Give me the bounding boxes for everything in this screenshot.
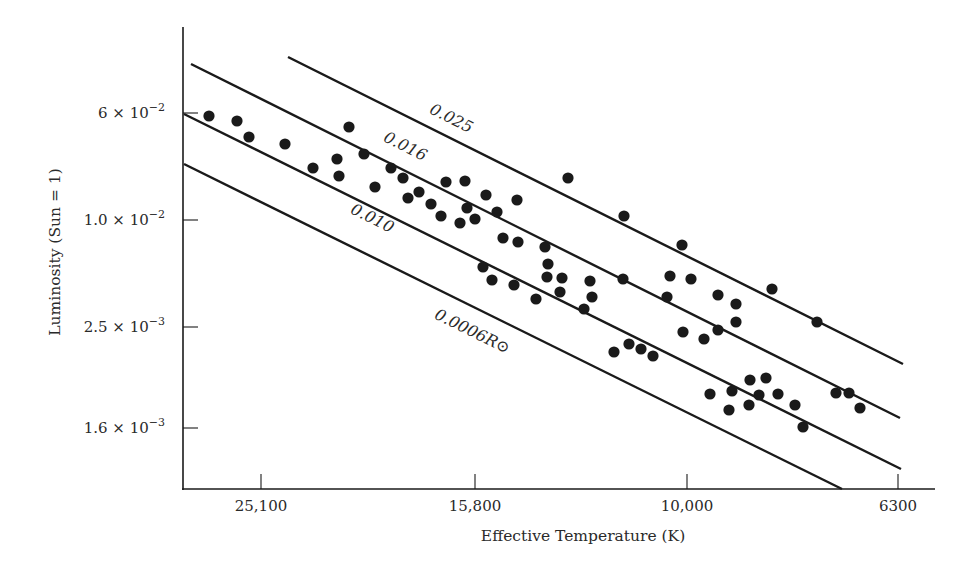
data-point [307, 162, 318, 173]
data-point [491, 206, 502, 217]
y-tick-label: 1.6 × 10−3 [84, 416, 165, 437]
data-point [677, 326, 688, 337]
data-point [760, 372, 771, 383]
data-point [530, 293, 541, 304]
data-point [704, 388, 715, 399]
data-point [413, 186, 424, 197]
data-point [730, 298, 741, 309]
data-point [685, 273, 696, 284]
hr-diagram-chart: 25,10015,80010,0006300 6 × 10−21.0 × 10−… [0, 0, 971, 574]
data-point [843, 387, 854, 398]
data-point [397, 172, 408, 183]
data-point [203, 110, 214, 121]
y-tick-label: 6 × 10−2 [98, 101, 165, 122]
x-tick-label: 6300 [879, 497, 917, 515]
data-point [608, 346, 619, 357]
data-point [698, 333, 709, 344]
data-point [723, 404, 734, 415]
data-point [461, 202, 472, 213]
data-point [279, 138, 290, 149]
data-point [539, 241, 550, 252]
data-point [664, 270, 675, 281]
y-tick-label: 2.5 × 10−3 [84, 315, 165, 336]
data-point [753, 389, 764, 400]
data-point [511, 194, 522, 205]
radius-line-label: 0.0006R⊙ [432, 305, 513, 358]
x-tick-label: 10,000 [661, 497, 714, 515]
data-point [647, 350, 658, 361]
x-ticks: 25,10015,80010,0006300 [235, 474, 917, 515]
data-point [243, 131, 254, 142]
data-point [712, 324, 723, 335]
data-point [743, 399, 754, 410]
y-axis-title: Luminosity (Sun = 1) [46, 168, 64, 335]
data-point [854, 402, 865, 413]
data-point [369, 181, 380, 192]
x-tick-label: 25,100 [235, 497, 288, 515]
data-point [425, 198, 436, 209]
data-point [541, 271, 552, 282]
data-point [772, 388, 783, 399]
data-point [617, 273, 628, 284]
data-point [623, 338, 634, 349]
data-point [440, 176, 451, 187]
radius-line-label: 0.010 [348, 199, 397, 236]
data-point [562, 172, 573, 183]
data-point [726, 385, 737, 396]
data-point [512, 236, 523, 247]
data-point [586, 291, 597, 302]
data-point [469, 213, 480, 224]
data-point [554, 286, 565, 297]
radius-line-label: 0.016 [381, 127, 430, 164]
radius-line [184, 164, 842, 489]
data-point [744, 374, 755, 385]
data-point [497, 232, 508, 243]
data-point [578, 303, 589, 314]
data-point [435, 210, 446, 221]
data-point [486, 274, 497, 285]
data-point [830, 387, 841, 398]
data-point [477, 261, 488, 272]
data-point [480, 189, 491, 200]
data-point [508, 279, 519, 290]
y-tick-label: 1.0 × 10−2 [84, 208, 165, 229]
data-point [797, 421, 808, 432]
data-point [766, 283, 777, 294]
data-point [333, 170, 344, 181]
data-point [402, 192, 413, 203]
data-point [635, 343, 646, 354]
x-tick-label: 15,800 [449, 497, 502, 515]
data-point [231, 115, 242, 126]
data-point [661, 291, 672, 302]
data-point [556, 272, 567, 283]
y-ticks: 6 × 10−21.0 × 10−22.5 × 10−31.6 × 10−3 [84, 101, 198, 437]
data-point [385, 162, 396, 173]
radius-line [184, 114, 901, 469]
data-point [712, 289, 723, 300]
data-point [730, 316, 741, 327]
data-point [676, 239, 687, 250]
data-point [459, 175, 470, 186]
data-point [542, 258, 553, 269]
data-point [789, 399, 800, 410]
x-axis-title: Effective Temperature (K) [481, 527, 685, 545]
data-points [203, 110, 865, 432]
data-point [584, 275, 595, 286]
data-point [331, 153, 342, 164]
radius-line [191, 64, 900, 418]
data-point [618, 210, 629, 221]
data-point [358, 148, 369, 159]
data-point [811, 316, 822, 327]
data-point [454, 217, 465, 228]
data-point [343, 121, 354, 132]
